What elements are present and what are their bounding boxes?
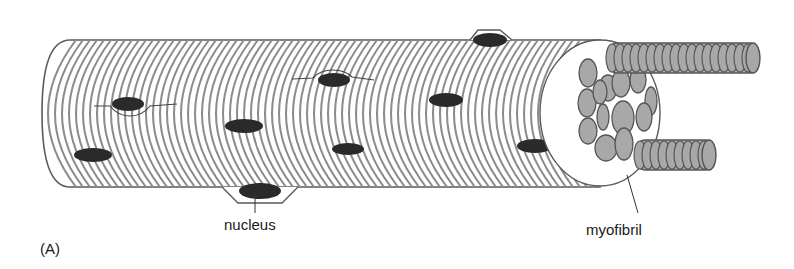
nucleus [225, 119, 263, 133]
nucleus-label: nucleus [224, 216, 276, 233]
muscle-fiber-diagram: nucleus myofibril (A) [0, 0, 794, 269]
muscle-fiber-illustration [0, 0, 794, 269]
nucleus [473, 33, 507, 47]
myofibril-rod [634, 140, 716, 170]
nucleus [318, 73, 350, 87]
myofibril-section [615, 128, 633, 160]
myofibril-section [597, 104, 609, 130]
myofibril-section [595, 135, 617, 161]
myofibril-label: myofibril [586, 221, 642, 238]
nucleus [239, 183, 281, 199]
nucleus [112, 97, 144, 111]
myofibril-rod [606, 43, 760, 73]
nucleus [332, 143, 364, 155]
myofibril-section [579, 59, 597, 87]
nucleus [74, 148, 112, 162]
nucleus [429, 93, 463, 107]
myofibril-section [593, 80, 607, 104]
myofibril-leader-line [627, 175, 638, 213]
panel-label: (A) [40, 240, 60, 257]
myofibril-section [579, 118, 597, 144]
myofibril-section [636, 103, 652, 131]
